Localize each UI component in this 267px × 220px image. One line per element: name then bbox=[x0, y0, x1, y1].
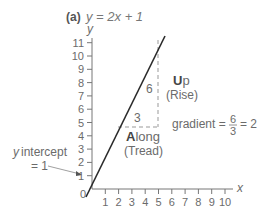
y-tick-label: 7 bbox=[78, 90, 84, 102]
x-ticks: 12345678910 bbox=[102, 189, 231, 208]
tread-label: (Tread) bbox=[124, 144, 163, 158]
y-tick-label: 3 bbox=[78, 143, 84, 155]
y-tick-label: 6 bbox=[78, 103, 84, 115]
x-tick-label: 4 bbox=[142, 196, 148, 208]
x-tick-label: 7 bbox=[182, 196, 188, 208]
y-tick-label: 5 bbox=[78, 117, 84, 129]
rise-value: 6 bbox=[146, 82, 153, 96]
y-tick-label: 10 bbox=[72, 50, 84, 62]
gradient-result: = 2 bbox=[240, 117, 257, 131]
panel-label: (a) bbox=[66, 10, 81, 24]
y-tick-label: 4 bbox=[78, 130, 84, 142]
y-tick-label: 2 bbox=[78, 156, 84, 168]
gradient-text: gradient = bbox=[172, 117, 226, 131]
x-tick-label: 9 bbox=[209, 196, 215, 208]
x-tick-label: 5 bbox=[155, 196, 161, 208]
x-tick-label: 10 bbox=[219, 196, 231, 208]
y-ticks: 1234567891011 bbox=[72, 37, 92, 182]
x-tick-label: 2 bbox=[116, 196, 122, 208]
intercept-label-line1: yintercept bbox=[12, 145, 68, 159]
x-tick-label: 8 bbox=[195, 196, 201, 208]
up-label: Up bbox=[173, 73, 190, 88]
y-tick-label: 9 bbox=[78, 63, 84, 75]
y-tick-label: 8 bbox=[78, 77, 84, 89]
function-line bbox=[86, 36, 165, 197]
intercept-arrow bbox=[48, 166, 80, 174]
x-tick-label: 6 bbox=[169, 196, 175, 208]
intercept-label-line2: = 1 bbox=[31, 159, 48, 173]
y-tick-label: 11 bbox=[73, 37, 84, 49]
chart: (a) y = 2x + 1 y 1234567891011 x 1234567… bbox=[0, 0, 267, 220]
origin-label: 0 bbox=[80, 188, 86, 200]
along-label: Along bbox=[126, 129, 160, 144]
y-axis-label: y bbox=[86, 22, 94, 36]
x-axis-label: x bbox=[236, 181, 244, 195]
y-tick-label: 1 bbox=[78, 170, 84, 182]
rise-label: (Rise) bbox=[166, 88, 198, 102]
gradient-numerator: 6 bbox=[230, 113, 236, 125]
x-tick-label: 3 bbox=[129, 196, 135, 208]
gradient-denominator: 3 bbox=[230, 125, 236, 137]
run-value: 3 bbox=[134, 111, 141, 125]
x-tick-label: 1 bbox=[102, 196, 108, 208]
chart-title: y = 2x + 1 bbox=[85, 9, 143, 24]
